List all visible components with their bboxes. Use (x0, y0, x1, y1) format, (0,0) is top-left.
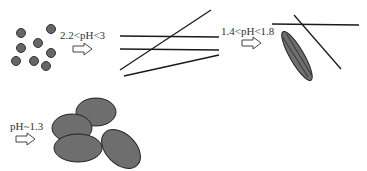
stage2-label: 1.4<pH<1.8 (221, 26, 274, 37)
spindle-and-lines (272, 15, 359, 84)
arrow-icon-2 (242, 37, 261, 49)
stage1-label: 2.2<pH<3 (60, 30, 105, 41)
stage3-label: pH~1.3 (10, 121, 43, 132)
ellipse-particles (52, 98, 148, 171)
ph-morphology-diagram: 2.2<pH<3 1.4<pH<1.8 pH~1.3 (0, 0, 367, 171)
arrow-icon-3 (16, 133, 35, 145)
rod-lines (120, 10, 219, 76)
arrow-icon-1 (73, 43, 92, 55)
spherical-particles (12, 25, 56, 71)
diagram-shapes (0, 0, 367, 171)
